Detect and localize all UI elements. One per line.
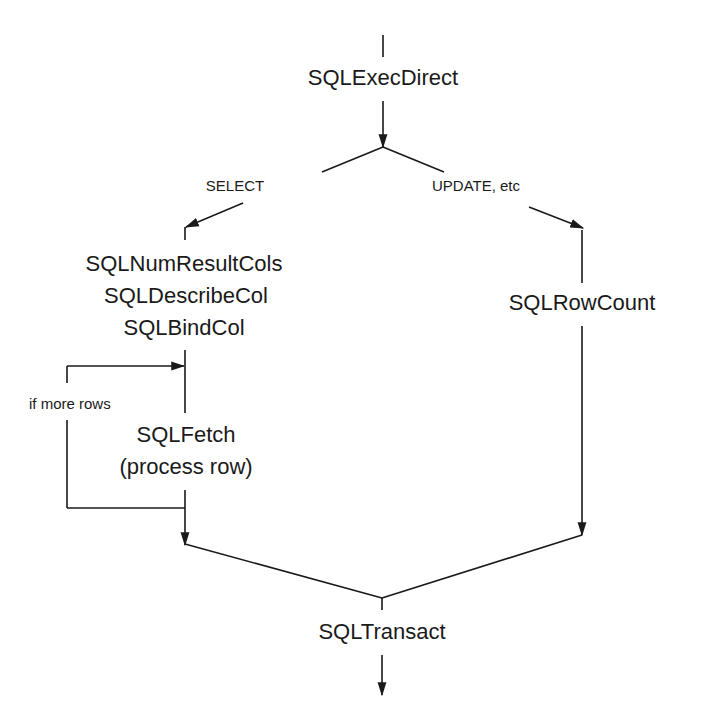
split-left-edge	[322, 147, 383, 172]
edge-label-select: SELECT	[206, 178, 264, 193]
flowchart-edges	[0, 0, 702, 726]
update-edge	[529, 207, 583, 228]
edge-label-update: UPDATE, etc	[432, 178, 520, 193]
merge-right-edge	[382, 535, 582, 598]
node-sqlexecdirect: SQLExecDirect	[308, 67, 458, 89]
node-sqlfetch: SQLFetch	[136, 424, 235, 446]
node-process-row: (process row)	[119, 456, 252, 478]
node-sqlnumresultcols: SQLNumResultCols	[86, 253, 283, 275]
node-sqlbindcol: SQLBindCol	[123, 317, 244, 339]
edge-label-if-more-rows: if more rows	[29, 396, 111, 411]
node-sqldescribecol: SQLDescribeCol	[104, 285, 268, 307]
node-sqltransact: SQLTransact	[318, 621, 445, 643]
select-edge	[186, 203, 243, 227]
merge-left-edge	[185, 544, 382, 598]
split-right-edge	[383, 147, 444, 172]
node-sqlrowcount: SQLRowCount	[509, 292, 656, 314]
